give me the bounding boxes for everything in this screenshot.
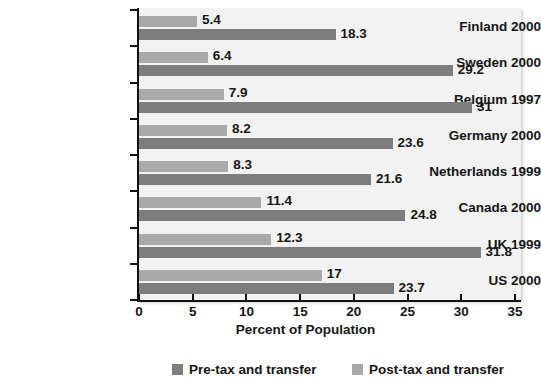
y-tick-1 <box>130 45 138 47</box>
bar-value-post-tax-2: 7.9 <box>229 85 248 100</box>
bar-value-post-tax-7: 17 <box>327 266 342 281</box>
bar-post-tax-4 <box>139 161 228 172</box>
y-tick-5 <box>130 190 138 192</box>
bar-value-post-tax-5: 11.4 <box>266 193 292 208</box>
x-tick-20 <box>353 294 355 301</box>
bar-value-pre-tax-3: 23.6 <box>398 135 424 150</box>
x-tick-15 <box>299 294 301 301</box>
bar-value-post-tax-3: 8.2 <box>232 121 251 136</box>
bar-value-pre-tax-1: 29.2 <box>458 62 484 77</box>
x-tick-label-10: 10 <box>239 304 254 319</box>
category-label-germany-2000: Germany 2000 <box>413 128 541 143</box>
x-tick-label-30: 30 <box>454 304 469 319</box>
category-label-us-2000: US 2000 <box>413 273 541 288</box>
x-tick-35 <box>514 294 516 301</box>
y-tick-2 <box>130 82 138 84</box>
legend-item-post-tax-and-transfer: Post-tax and transfer <box>352 362 504 377</box>
bar-value-pre-tax-2: 31 <box>477 99 492 114</box>
bar-value-pre-tax-7: 23.7 <box>399 280 425 295</box>
x-axis-line <box>137 300 521 302</box>
x-tick-label-0: 0 <box>135 304 143 319</box>
x-tick-10 <box>245 294 247 301</box>
legend-label-post-tax: Post-tax and transfer <box>369 362 504 377</box>
x-tick-label-5: 5 <box>189 304 197 319</box>
x-axis-title: Percent of Population <box>0 322 541 337</box>
bar-post-tax-3 <box>139 125 227 136</box>
legend-item-pre-tax-and-transfer: Pre-tax and transfer <box>172 362 317 377</box>
bar-post-tax-0 <box>139 16 197 27</box>
bar-post-tax-2 <box>139 89 224 100</box>
legend-swatch-post-tax <box>352 364 363 375</box>
bar-post-tax-7 <box>139 270 322 281</box>
bar-value-post-tax-6: 12.3 <box>276 230 302 245</box>
bar-pre-tax-2 <box>139 102 472 113</box>
bar-pre-tax-7 <box>139 283 394 294</box>
bar-value-pre-tax-6: 31.8 <box>486 244 512 259</box>
bar-post-tax-5 <box>139 197 261 208</box>
bar-value-post-tax-1: 6.4 <box>213 48 232 63</box>
bar-pre-tax-1 <box>139 65 453 76</box>
bar-value-post-tax-4: 8.3 <box>233 157 252 172</box>
y-tick-7 <box>130 263 138 265</box>
x-tick-label-20: 20 <box>346 304 361 319</box>
legend-swatch-pre-tax <box>172 364 183 375</box>
bar-post-tax-1 <box>139 52 208 63</box>
chart-legend: Pre-tax and transfer Post-tax and transf… <box>0 362 541 382</box>
bar-pre-tax-4 <box>139 174 371 185</box>
x-tick-25 <box>407 294 409 301</box>
x-tick-label-15: 15 <box>293 304 308 319</box>
bar-pre-tax-3 <box>139 138 393 149</box>
bar-pre-tax-5 <box>139 210 405 221</box>
legend-label-pre-tax: Pre-tax and transfer <box>189 362 317 377</box>
x-tick-5 <box>192 294 194 301</box>
bar-chart: 05101520253035 Finland 2000Sweden 2000Be… <box>0 0 541 389</box>
bar-value-post-tax-0: 5.4 <box>202 12 221 27</box>
bar-post-tax-6 <box>139 234 271 245</box>
bar-value-pre-tax-0: 18.3 <box>341 26 367 41</box>
y-tick-6 <box>130 227 138 229</box>
x-tick-0 <box>138 294 140 301</box>
y-tick-8 <box>130 299 138 301</box>
bar-value-pre-tax-5: 24.8 <box>410 207 436 222</box>
bar-pre-tax-0 <box>139 29 336 40</box>
y-tick-0 <box>130 9 138 11</box>
category-label-finland-2000: Finland 2000 <box>413 19 541 34</box>
x-tick-label-35: 35 <box>507 304 522 319</box>
bar-pre-tax-6 <box>139 247 481 258</box>
category-label-netherlands-1999: Netherlands 1999 <box>413 164 541 179</box>
y-tick-4 <box>130 154 138 156</box>
bar-value-pre-tax-4: 21.6 <box>376 171 402 186</box>
y-tick-3 <box>130 118 138 120</box>
x-axis-title-text: Percent of Population <box>236 322 376 337</box>
x-tick-30 <box>460 294 462 301</box>
x-tick-label-25: 25 <box>400 304 415 319</box>
